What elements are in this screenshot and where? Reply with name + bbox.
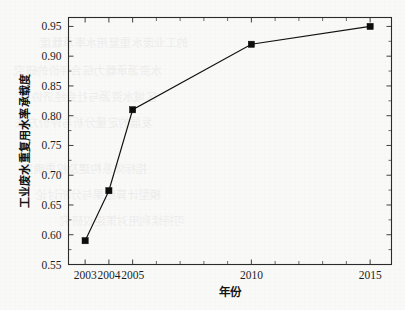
chart-canvas: 0.550.600.650.700.750.800.850.900.95 200…	[0, 0, 405, 310]
x-tick-label: 2010	[240, 269, 263, 281]
plot-frame-border	[69, 18, 392, 265]
x-axis-tick-labels: 20032004200520102015	[74, 269, 382, 281]
y-tick-label: 0.70	[41, 169, 61, 181]
y-tick-label: 0.90	[41, 50, 61, 62]
data-point-marker	[82, 238, 88, 244]
y-axis-minor-ticks	[69, 41, 392, 249]
y-axis-tick-labels: 0.550.600.650.700.750.800.850.900.95	[41, 20, 61, 270]
y-tick-label: 0.75	[41, 139, 61, 151]
x-tick-label: 2003	[74, 269, 97, 281]
x-axis-title: 年份	[219, 285, 242, 298]
data-series-line	[85, 26, 370, 240]
data-point-marker	[367, 23, 373, 29]
x-tick-label: 2015	[359, 269, 382, 281]
line-chart-figure: 0.550.600.650.700.750.800.850.900.95 200…	[0, 0, 405, 310]
y-tick-label: 0.80	[41, 110, 61, 122]
y-tick-label: 0.95	[41, 20, 61, 32]
data-point-marker	[130, 107, 136, 113]
x-tick-label: 2004	[97, 269, 120, 281]
y-tick-label: 0.65	[41, 199, 61, 211]
y-axis-major-ticks	[69, 26, 392, 264]
y-tick-label: 0.55	[41, 259, 61, 271]
data-point-marker	[106, 188, 112, 194]
y-axis-title: 工业废水重复用水率承载度	[18, 73, 31, 208]
x-axis-major-ticks	[85, 18, 370, 265]
y-tick-label: 0.85	[41, 80, 61, 92]
data-point-marker	[248, 41, 254, 47]
y-tick-label: 0.60	[41, 229, 61, 241]
x-tick-label: 2005	[121, 269, 144, 281]
